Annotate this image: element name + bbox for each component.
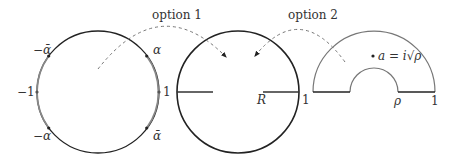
label-point-a: a = i√ρ xyxy=(378,49,421,63)
slit-disk: R 1 xyxy=(177,31,310,153)
label-neg-alpha-bar: −ᾱ xyxy=(33,43,51,57)
conformal-map-diagram: −ᾱ α −1 1 −α ᾱ R 1 a = i√ρ ρ 1 option 1 … xyxy=(0,0,454,164)
label-one: 1 xyxy=(163,85,171,99)
option-1-label: option 1 xyxy=(152,8,202,22)
label-slit-one: 1 xyxy=(302,93,310,107)
option-2-label: option 2 xyxy=(288,8,338,22)
label-neg-one: −1 xyxy=(17,85,35,99)
point-one xyxy=(157,90,160,93)
label-rho: ρ xyxy=(393,94,401,108)
label-R: R xyxy=(256,93,266,107)
label-neg-alpha: −α xyxy=(33,129,51,143)
point-alpha-bar xyxy=(145,126,148,129)
point-neg-one xyxy=(35,90,38,93)
option-2-arrow: option 2 xyxy=(255,8,345,62)
half-annulus: a = i√ρ ρ 1 xyxy=(313,31,439,108)
label-alpha-bar: ᾱ xyxy=(153,129,161,143)
unit-circle: −ᾱ α −1 1 −α ᾱ xyxy=(17,31,171,153)
point-a xyxy=(371,54,374,57)
label-annulus-one: 1 xyxy=(431,94,439,108)
option-1-arrow: option 1 xyxy=(98,8,226,69)
label-alpha: α xyxy=(153,43,161,57)
point-alpha xyxy=(145,54,148,57)
